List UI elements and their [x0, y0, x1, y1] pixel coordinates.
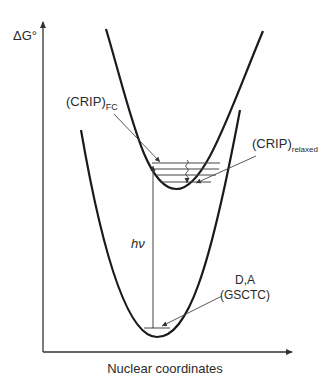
- y-axis-label: ΔG°: [13, 28, 37, 43]
- crip-fc-pointer: [114, 114, 160, 162]
- crip-relaxed-label: (CRIP)relaxed: [252, 136, 318, 154]
- diagram-canvas: ΔG° Nuclear coordinates hν (CRIP)FC (CRI…: [0, 0, 330, 386]
- x-axis-label: Nuclear coordinates: [107, 361, 223, 376]
- upper-well-curve: [106, 29, 263, 189]
- crip-fc-label: (CRIP)FC: [66, 94, 118, 112]
- ground-state-label-line2: (GSCTC): [220, 288, 270, 302]
- ground-state-label-line1: D,A: [235, 273, 255, 287]
- excitation-label: hν: [131, 236, 145, 251]
